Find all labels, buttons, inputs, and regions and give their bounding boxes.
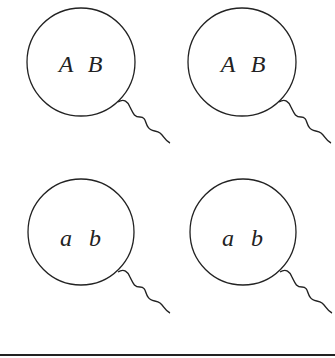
sperm-cell-3: a b <box>28 179 170 313</box>
flagellum-tail <box>118 100 170 143</box>
allele-label: a <box>60 225 72 251</box>
sperm-cell-1: A B <box>27 8 170 143</box>
allele-label: A <box>219 51 236 77</box>
sperm-cells-diagram: A B A B a b a b <box>0 0 335 358</box>
allele-label: A <box>57 51 74 77</box>
allele-label: b <box>89 225 101 251</box>
allele-label: a <box>222 225 234 251</box>
allele-label: b <box>251 225 263 251</box>
cell-body <box>27 8 135 116</box>
cell-body <box>188 8 296 116</box>
flagellum-tail <box>118 270 170 313</box>
flagellum-tail <box>279 100 331 143</box>
sperm-cell-2: A B <box>188 8 331 143</box>
cell-body <box>28 179 134 285</box>
allele-label: B <box>251 51 266 77</box>
sperm-cell-4: a b <box>190 179 332 313</box>
flagellum-tail <box>280 270 332 313</box>
allele-label: B <box>88 51 103 77</box>
cell-body <box>190 179 296 285</box>
